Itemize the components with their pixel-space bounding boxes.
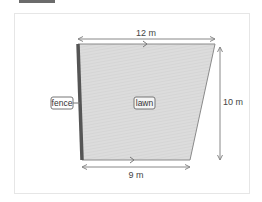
lawn-diagram: 12 m 9 m 10 m fence lawn (0, 0, 262, 202)
top-dimension-label: 12 m (136, 28, 156, 38)
lawn-tag-label: lawn (136, 98, 154, 108)
height-dimension-label: 10 m (223, 97, 243, 107)
bottom-dimension-label: 9 m (128, 170, 143, 180)
fence-tag-label: fence (52, 98, 73, 108)
